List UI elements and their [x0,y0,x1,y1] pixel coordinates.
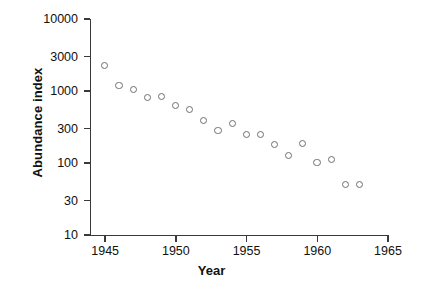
y-tick-label: 10000 [43,13,78,26]
y-tick-mark [84,128,90,129]
y-tick-label: 10 [64,229,78,242]
data-point [342,181,349,188]
x-tick-mark [104,236,105,242]
x-tick-label: 1955 [227,245,267,258]
y-tick-mark [84,56,90,57]
data-point [115,82,122,89]
data-point [214,127,221,134]
data-point [229,120,236,127]
data-point [356,181,363,188]
y-tick-label: 30 [64,195,78,208]
x-axis-title: Year [0,263,423,278]
y-tick-label: 3000 [50,51,78,64]
y-axis-title: Abundance index [30,43,45,203]
data-point [130,86,137,93]
plot-area [91,19,388,235]
x-tick-label: 1960 [297,245,337,258]
y-tick-mark [84,18,90,19]
x-tick-mark [246,236,247,242]
x-tick-mark [317,236,318,242]
data-point [313,159,320,166]
x-axis-line [90,235,389,236]
x-tick-mark [175,236,176,242]
data-point [172,102,179,109]
x-tick-label: 1945 [85,245,125,258]
y-tick-mark [84,234,90,235]
x-tick-label: 1950 [156,245,196,258]
scatter-chart: Abundance index Year 1000030001000300100… [0,0,423,290]
y-tick-label: 300 [57,123,78,136]
x-tick-mark [387,236,388,242]
x-tick-label: 1965 [368,245,408,258]
y-tick-mark [84,90,90,91]
y-tick-label: 100 [57,157,78,170]
y-tick-mark [84,200,90,201]
y-tick-mark [84,162,90,163]
y-tick-label: 1000 [50,85,78,98]
